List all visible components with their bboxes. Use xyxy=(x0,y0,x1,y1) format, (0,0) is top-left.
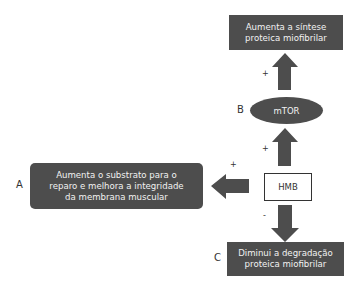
hmb-box: HMB xyxy=(264,173,312,201)
label-c: C xyxy=(214,252,221,263)
sign-top: + xyxy=(262,69,269,78)
substrate-text-line2: reparo e melhora a integridade xyxy=(49,181,183,192)
substrate-text-line1: Aumenta o substrato para o xyxy=(49,170,183,181)
sign-middle: + xyxy=(262,144,269,153)
mtor-text: mTOR xyxy=(273,106,299,116)
arrow-up-to-mtor xyxy=(272,128,298,166)
substrate-box: Aumenta o substrato para o reparo e melh… xyxy=(30,163,203,209)
synthesis-text-line2: proteica miofibrilar xyxy=(245,33,327,44)
arrow-up-to-synthesis xyxy=(272,53,298,90)
arrow-left-to-substrate xyxy=(211,174,249,199)
mtor-ellipse: mTOR xyxy=(250,97,323,124)
synthesis-box: Aumenta a síntese proteica miofibrilar xyxy=(229,15,343,50)
degradation-text-line2: proteica miofibrilar xyxy=(238,259,333,270)
synthesis-text-line1: Aumenta a síntese xyxy=(245,22,327,33)
label-a: A xyxy=(16,179,23,190)
sign-left: + xyxy=(230,160,237,169)
arrow-down-to-degradation xyxy=(271,205,299,242)
hmb-text: HMB xyxy=(278,182,298,192)
degradation-text-line1: Diminui a degradação xyxy=(238,248,333,259)
sign-bottom: - xyxy=(263,211,266,220)
substrate-text-line3: da membrana muscular xyxy=(49,192,183,203)
degradation-box: Diminui a degradação proteica miofibrila… xyxy=(227,242,344,276)
label-b: B xyxy=(237,104,244,115)
